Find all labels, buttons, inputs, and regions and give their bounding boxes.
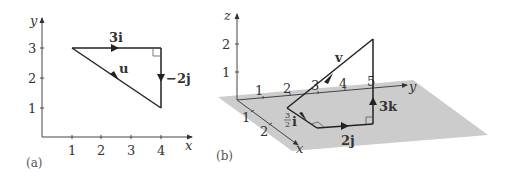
arrowhead-u-icon <box>110 71 119 80</box>
fraction-numerator: 3 <box>285 111 290 120</box>
x-axis-label-a: x <box>185 138 193 153</box>
vector-figure: y x 1 2 3 4 3 2 1 3i <box>0 0 506 178</box>
x-tick-1: 1 <box>68 143 76 158</box>
y-tick-3: 3 <box>28 41 36 56</box>
label-i: i <box>292 114 297 129</box>
label-2j: 2j <box>341 133 355 148</box>
label-3k: 3k <box>379 99 398 114</box>
z-tick-2: 2 <box>222 37 230 52</box>
x-tick-2-b: 2 <box>260 124 268 139</box>
y-tick-4-b: 4 <box>339 76 347 91</box>
fraction-denominator: 2 <box>285 120 290 129</box>
label-neg2j: −2j <box>166 71 191 86</box>
x-tick-2: 2 <box>97 143 105 158</box>
panel-a: y x 1 2 3 4 3 2 1 3i <box>26 13 193 170</box>
panel-a-label: (a) <box>26 156 43 170</box>
x-tick-1-b: 1 <box>242 110 250 125</box>
x-tick-4: 4 <box>157 143 165 158</box>
label-v: v <box>334 50 343 65</box>
x-axis-label-b: x <box>296 141 304 156</box>
y-tick-1: 1 <box>28 101 36 116</box>
label-u: u <box>119 61 128 76</box>
z-tick-1: 1 <box>222 65 230 80</box>
y-axis-label-b: y <box>408 79 417 94</box>
y-tick-2-b: 2 <box>283 81 291 96</box>
label-3i: 3i <box>109 30 123 45</box>
z-axis-label-b: z <box>223 8 231 23</box>
z-ticks-b: 2 1 <box>222 37 239 80</box>
right-angle-mark-a <box>153 48 161 56</box>
y-tick-5-b: 5 <box>367 74 375 89</box>
x-ticks-a: 1 2 3 4 <box>68 135 165 158</box>
panel-b-label: (b) <box>216 149 233 163</box>
y-tick-2: 2 <box>28 71 36 86</box>
arrowhead-3i-icon <box>111 44 119 52</box>
panel-b: z y x 2 1 1 2 3 4 5 1 2 <box>216 8 488 163</box>
arrowhead-neg2j-icon <box>157 74 165 82</box>
x-tick-3: 3 <box>127 143 135 158</box>
figure-canvas: y x 1 2 3 4 3 2 1 3i <box>0 0 506 178</box>
y-axis-label-a: y <box>29 13 38 28</box>
y-tick-1-b: 1 <box>255 83 263 98</box>
